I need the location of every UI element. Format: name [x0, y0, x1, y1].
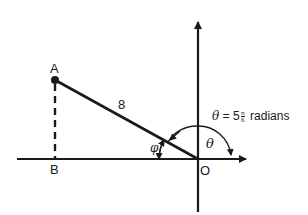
- theta-arc-start-arrow: [170, 131, 180, 140]
- theta-annotation-coefficient: 5: [233, 109, 240, 123]
- point-a-label: A: [50, 62, 59, 75]
- fraction-denominator: 6: [241, 117, 245, 123]
- theta-label: θ: [206, 137, 214, 150]
- point-o-label: O: [200, 164, 210, 177]
- diagram-canvas: [0, 0, 308, 215]
- phi-arc-tail: [159, 140, 164, 159]
- theta-annotation-fraction: π6: [241, 110, 245, 123]
- segment-oa: [55, 80, 198, 159]
- theta-arc: [168, 126, 231, 155]
- phi-label: φ: [150, 142, 158, 154]
- point-a-dot: [51, 76, 59, 84]
- theta-annotation: θ = 5π6 radians: [212, 110, 289, 123]
- length-label-oa: 8: [118, 98, 125, 111]
- theta-annotation-unit: radians: [250, 109, 289, 123]
- fraction-numerator: π: [241, 110, 245, 117]
- point-b-label: B: [50, 163, 59, 176]
- theta-annotation-equals: =: [223, 109, 230, 123]
- theta-annotation-symbol: θ: [212, 109, 219, 123]
